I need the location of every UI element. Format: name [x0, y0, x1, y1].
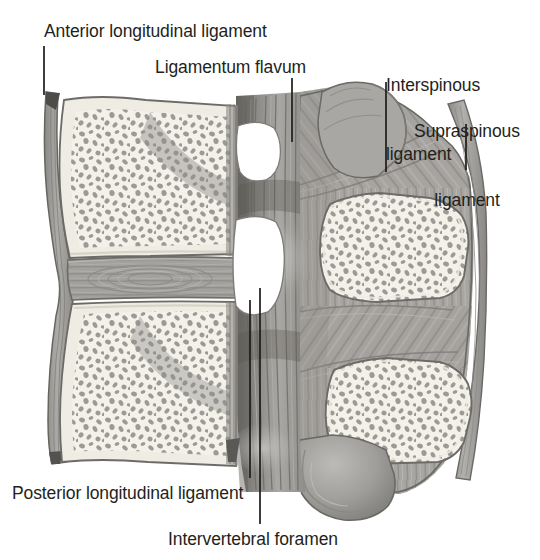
vertebral-body-lower [60, 301, 236, 466]
label-anterior-longitudinal-ligament: Anterior longitudinal ligament [44, 20, 267, 43]
intervertebral-foramen-upper [236, 122, 280, 181]
label-supraspinous-ligament-line2: ligament [398, 189, 536, 212]
label-supraspinous-ligament: Supraspinous ligament [398, 74, 536, 258]
label-posterior-longitudinal-ligament: Posterior longitudinal ligament [12, 482, 243, 505]
label-ligamentum-flavum: Ligamentum flavum [155, 56, 306, 79]
label-intervertebral-foramen: Intervertebral foramen [168, 528, 338, 551]
intervertebral-disc [68, 257, 237, 300]
anatomical-figure: Anterior longitudinal ligament Ligamentu… [0, 0, 540, 560]
label-supraspinous-ligament-line1: Supraspinous [398, 120, 536, 143]
inferior-articular-process [296, 435, 395, 520]
intervertebral-foramen-lower [233, 216, 284, 314]
vertebral-body-upper [60, 97, 237, 258]
